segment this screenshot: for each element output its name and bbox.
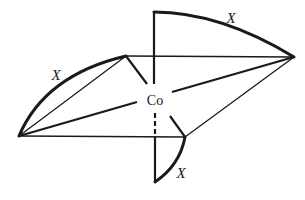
ligand-label-left: X xyxy=(50,67,61,83)
edge-right-lowerright xyxy=(185,57,294,137)
ligand-label-bottom: X xyxy=(175,165,186,181)
chelate-arc-top xyxy=(154,12,294,57)
edge-left-lowerright xyxy=(19,136,185,137)
central-atom-label: Co xyxy=(147,93,163,108)
octahedral-complex-diagram: Co X X X xyxy=(0,0,305,200)
edge-left-upperleft xyxy=(19,56,126,136)
ligand-label-top: X xyxy=(225,10,236,26)
bond-right xyxy=(172,57,294,92)
edge-upperleft-right xyxy=(126,56,294,57)
bond-lower-right xyxy=(170,116,185,137)
bond-upper-left xyxy=(126,56,147,84)
